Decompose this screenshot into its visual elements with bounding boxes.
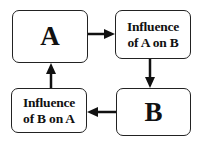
arrow-b-to-influence-b-on-a: [87, 107, 116, 117]
arrow-a-to-influence-a-on-b: [88, 29, 115, 39]
edges-layer: [0, 0, 201, 144]
arrow-influence-b-on-a-to-a: [46, 63, 56, 88]
arrow-influence-a-on-b-to-b: [145, 59, 155, 88]
